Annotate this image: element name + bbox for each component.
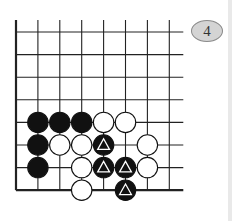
black-stone (28, 135, 48, 155)
white-stone (115, 112, 135, 132)
white-stone (137, 135, 157, 155)
white-stone (50, 135, 70, 155)
black-stone (28, 157, 48, 177)
black-stone (72, 112, 92, 132)
black-stone (28, 112, 48, 132)
side-scrollbar (228, 0, 232, 221)
white-stone (72, 157, 92, 177)
white-stone (137, 157, 157, 177)
problem-number-badge: 4 (191, 20, 223, 42)
white-stone (72, 135, 92, 155)
problem-number: 4 (203, 23, 211, 40)
white-stone (93, 112, 113, 132)
white-stone (72, 180, 92, 200)
black-stone (50, 112, 70, 132)
